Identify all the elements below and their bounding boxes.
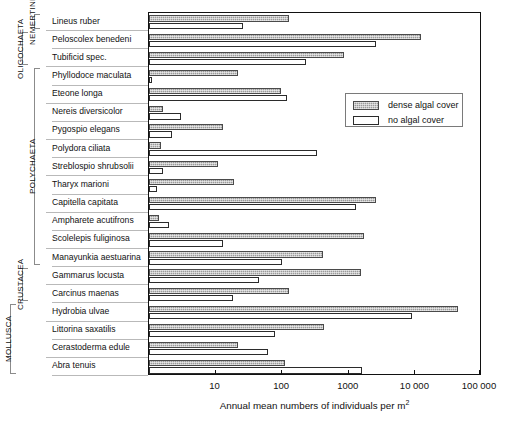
- bar-no-algal-cover: [149, 168, 163, 174]
- bar-dense-algal-cover: [149, 70, 238, 76]
- bar-no-algal-cover: [149, 277, 259, 283]
- bar-dense-algal-cover: [149, 106, 163, 112]
- group-label: POLYCHAETA: [28, 139, 37, 195]
- species-label: Polydora ciliata: [52, 143, 110, 153]
- x-axis-title-text: Annual mean numbers of individuals per m: [220, 400, 406, 411]
- bar-dense-algal-cover: [149, 306, 458, 312]
- group-label: MOLLUSCA: [4, 315, 13, 361]
- row-separator-line: [46, 357, 148, 358]
- species-label: Gammarus locusta: [52, 270, 124, 280]
- legend-label: dense algal cover: [388, 100, 459, 110]
- bar-dense-algal-cover: [149, 342, 238, 348]
- row-separator-line: [52, 375, 148, 376]
- species-label: Ampharete acutifrons: [52, 215, 134, 225]
- row-separator-line: [46, 66, 148, 67]
- plot-area: [148, 12, 481, 375]
- species-label: Cerastoderma edule: [52, 342, 130, 352]
- bar-no-algal-cover: [149, 259, 282, 265]
- x-tick-mark: [215, 370, 216, 375]
- x-tick-mark: [414, 370, 415, 375]
- species-label: Lineus ruber: [52, 16, 100, 26]
- bar-no-algal-cover: [149, 77, 152, 83]
- species-label: Pygospio elegans: [52, 124, 120, 134]
- row-separator-line: [52, 157, 148, 158]
- bar-dense-algal-cover: [149, 324, 324, 330]
- row-separator-line: [46, 248, 148, 249]
- bar-no-algal-cover: [149, 95, 287, 101]
- species-label: Manayunkia aestuarina: [52, 252, 141, 262]
- row-separator-line: [52, 266, 148, 267]
- group-bracket-tick: [10, 304, 16, 305]
- x-tick-mark: [479, 370, 480, 375]
- legend-label: no algal cover: [388, 115, 444, 125]
- bar-no-algal-cover: [149, 349, 268, 355]
- x-tick-mark: [281, 370, 282, 375]
- row-separator-line: [52, 339, 148, 340]
- row-separator-line: [46, 212, 148, 213]
- x-axis-title: Annual mean numbers of individuals per m…: [108, 399, 511, 411]
- species-label: Eteone longa: [52, 88, 103, 98]
- species-label: Peloscolex benedeni: [52, 34, 131, 44]
- bar-no-algal-cover: [149, 313, 412, 319]
- species-label: Phyllodoce maculata: [52, 70, 131, 80]
- bar-no-algal-cover: [149, 240, 223, 246]
- bar-dense-algal-cover: [149, 52, 344, 58]
- row-separator-line: [46, 175, 148, 176]
- row-separator-line: [46, 321, 148, 322]
- row-separator-line: [46, 284, 148, 285]
- legend-box: dense algal coverno algal cover: [345, 93, 463, 127]
- group-label: OLIGOCHAETA: [16, 18, 25, 79]
- bar-dense-algal-cover: [149, 360, 285, 366]
- legend-swatch-dense: [353, 101, 379, 110]
- bar-no-algal-cover: [149, 41, 376, 47]
- row-separator-line: [46, 103, 148, 104]
- group-label: NEMERTINI: [28, 0, 37, 45]
- bar-dense-algal-cover: [149, 288, 289, 294]
- row-separator-line: [52, 48, 148, 49]
- species-label: Abra tenuis: [52, 360, 95, 370]
- species-label: Carcinus maenas: [52, 288, 119, 298]
- row-separator-line: [52, 194, 148, 195]
- bar-no-algal-cover: [149, 59, 306, 65]
- bar-dense-algal-cover: [149, 197, 376, 203]
- legend-swatch-none: [353, 116, 379, 125]
- species-label: Scolelepis fuliginosa: [52, 233, 130, 243]
- bar-dense-algal-cover: [149, 251, 323, 257]
- bar-dense-algal-cover: [149, 233, 364, 239]
- bar-dense-algal-cover: [149, 269, 361, 275]
- bar-no-algal-cover: [149, 131, 172, 137]
- species-label: Tharyx marioni: [52, 179, 109, 189]
- row-separator-line: [52, 230, 148, 231]
- bars-layer: [149, 13, 480, 374]
- bar-no-algal-cover: [149, 367, 362, 373]
- x-axis-title-superscript: 2: [405, 399, 409, 406]
- bar-dense-algal-cover: [149, 88, 281, 94]
- species-label: Nereis diversicolor: [52, 106, 123, 116]
- chart-figure: NEMERTINIOLIGOCHAETAPOLYCHAETACRUSTACEAM…: [0, 0, 511, 423]
- bar-dense-algal-cover: [149, 124, 223, 130]
- species-label: Hydrobia ulvae: [52, 306, 109, 316]
- bar-no-algal-cover: [149, 113, 181, 119]
- bar-no-algal-cover: [149, 186, 157, 192]
- row-separator-line: [46, 139, 148, 140]
- bar-dense-algal-cover: [149, 161, 218, 167]
- bar-no-algal-cover: [149, 331, 275, 337]
- row-separator-line: [46, 30, 148, 31]
- x-tick-label: 100 000: [439, 380, 511, 391]
- bar-no-algal-cover: [149, 150, 317, 156]
- group-label: CRUSTACEA: [16, 258, 25, 309]
- legend-item-dense: dense algal cover: [353, 100, 459, 110]
- bar-dense-algal-cover: [149, 179, 234, 185]
- bar-no-algal-cover: [149, 23, 243, 29]
- species-label: Streblospio shrubsolii: [52, 161, 134, 171]
- species-label: Tubificid spec.: [52, 52, 107, 62]
- bar-dense-algal-cover: [149, 215, 159, 221]
- row-separator-line: [52, 302, 148, 303]
- legend-item-none: no algal cover: [353, 115, 444, 125]
- bar-no-algal-cover: [149, 222, 169, 228]
- group-bracket-tick: [34, 68, 40, 69]
- bar-dense-algal-cover: [149, 34, 421, 40]
- group-bracket-tick: [34, 264, 40, 265]
- row-separator-line: [52, 85, 148, 86]
- species-label: Capitella capitata: [52, 197, 118, 207]
